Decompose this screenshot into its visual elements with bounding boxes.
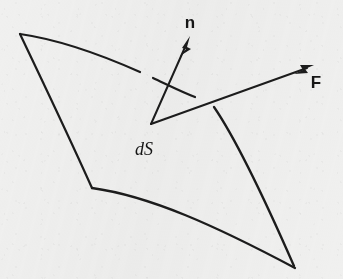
- surface-element-label: dS: [135, 139, 153, 159]
- force-vector-F-shaft: [151, 68, 307, 124]
- force-vector-F: [151, 65, 314, 124]
- surface-edge-left: [20, 34, 92, 188]
- force-vector-label: F: [311, 73, 321, 92]
- surface-edge-right: [214, 107, 294, 266]
- surface-patch-dS: [20, 34, 295, 268]
- surface-edge-top-segment-b: [153, 78, 195, 97]
- normal-vector-n-shaft: [151, 45, 186, 124]
- surface-element-figure: n F dS: [0, 0, 343, 279]
- figure-canvas: n F dS: [0, 0, 343, 279]
- surface-edge-top-segment-a: [20, 34, 140, 72]
- normal-vector-label: n: [185, 13, 195, 32]
